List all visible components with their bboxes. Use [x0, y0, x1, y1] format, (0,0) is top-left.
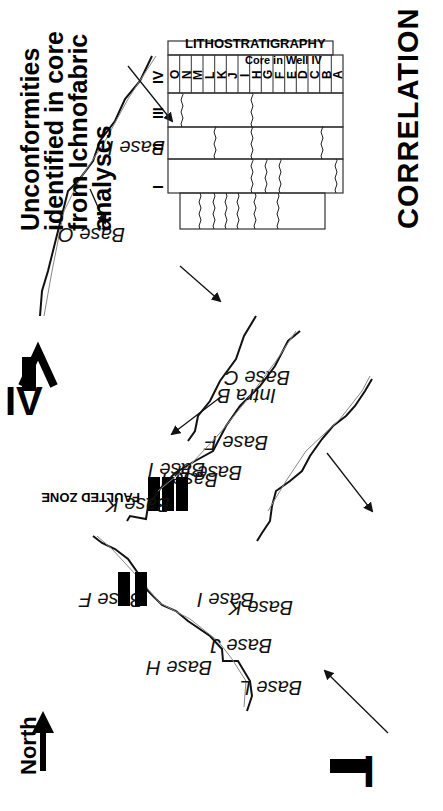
well-III-unconformity-H — [251, 127, 253, 159]
well-III-unconformity-B — [321, 127, 323, 159]
unit-C: C — [308, 70, 322, 79]
unconformity-marks — [181, 93, 337, 229]
well-I-unconformity-L — [199, 193, 201, 229]
well-III-unconformity-K — [214, 127, 216, 159]
unit-O: O — [168, 70, 182, 79]
core-in-well-header: Core in Well IV — [245, 54, 322, 66]
unit-B: B — [320, 70, 334, 79]
lithostratigraphy-table — [0, 0, 443, 811]
well-I-unconformity-F — [277, 193, 279, 229]
well-I-unconformity-I — [237, 193, 239, 229]
well-IV-column — [168, 93, 343, 127]
panel-IV-label: IV — [5, 379, 43, 424]
unit-H: H — [250, 70, 264, 79]
well-II-unconformity-E — [279, 159, 281, 193]
well-I-unconformity-K — [213, 193, 215, 229]
well-I-column — [180, 193, 325, 229]
unit-K: K — [215, 70, 229, 79]
well-II-column — [168, 159, 343, 193]
lithostratigraphy-header: LITHOSTRATIGRAPHY — [185, 36, 326, 51]
unit-N: N — [180, 70, 194, 79]
well-IV-unconformity-H — [251, 93, 253, 127]
unit-L: L — [203, 72, 217, 79]
well-III-column — [168, 127, 343, 159]
unit-I: I — [238, 74, 252, 77]
figure-frame: North Base L Base K Base J Base I Base H… — [0, 0, 443, 811]
unit-E: E — [285, 71, 299, 79]
well-II-unconformity-G — [265, 159, 267, 193]
unit-F: F — [273, 72, 287, 79]
well-IV-unconformity-N — [181, 93, 183, 127]
well-II-unconformity-B — [335, 159, 337, 193]
well-I-unconformity-J — [225, 193, 227, 229]
well-I-unconformity-H — [254, 193, 256, 229]
well-II-unconformity-H — [251, 159, 253, 193]
rotated-figure-canvas: North Base L Base K Base J Base I Base H… — [0, 0, 443, 811]
